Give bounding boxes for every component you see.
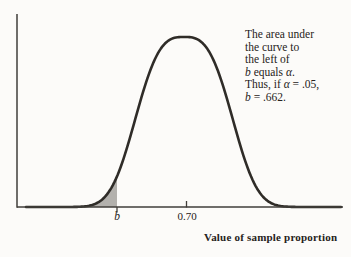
annotation-line: The area under	[245, 28, 349, 41]
x-axis-title: Value of sample proportion	[204, 231, 337, 243]
annotation-line: b = .662.	[245, 91, 349, 104]
annotation-line: b equals α.	[245, 66, 349, 79]
distribution-figure: The area under the curve to the left of …	[0, 0, 351, 257]
annotation-line: the left of	[245, 53, 349, 66]
annotation-line: Thus, if α = .05,	[245, 78, 349, 91]
annotation-line: the curve to	[245, 41, 349, 54]
annotation-text: The area under the curve to the left of …	[245, 28, 349, 104]
shaded-alpha-region	[28, 176, 117, 207]
tick-label-b: b	[109, 210, 125, 222]
tick-label-mean: 0.70	[168, 210, 206, 222]
